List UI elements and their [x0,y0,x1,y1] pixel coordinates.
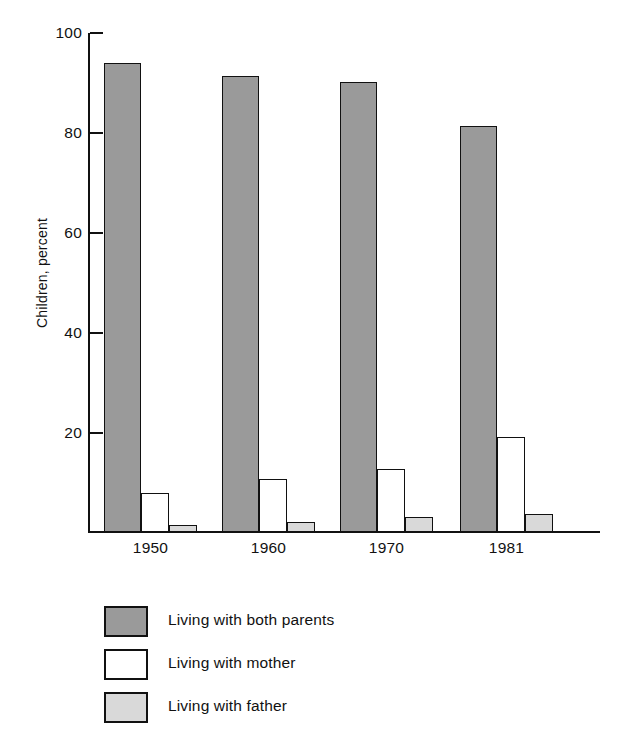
y-axis-tick-40 [90,332,103,334]
legend-swatch-father [104,692,148,723]
bar-1981-mother [497,437,525,534]
legend-item-both: Living with both parents [104,604,484,647]
y-axis-tick-label: 100 [56,25,82,41]
x-axis-label-1950: 1950 [91,539,211,557]
y-axis-tick-label-wrap: 40 [22,325,82,341]
legend-label-mother: Living with mother [168,653,296,673]
y-axis-tick-20 [90,432,103,434]
y-axis-tick-60 [90,232,103,234]
legend-item-mother: Living with mother [104,647,484,690]
legend-label-father: Living with father [168,696,287,716]
y-axis-tick-label: 40 [64,325,82,341]
chart-legend: Living with both parentsLiving with moth… [104,604,484,733]
y-axis-tick-label-wrap: 60 [22,225,82,241]
y-axis-tick-label: 20 [64,425,82,441]
x-axis-label-1981: 1981 [447,539,567,557]
y-axis-line [88,33,90,533]
legend-swatch-mother [104,649,148,680]
y-axis-tick-label: 80 [64,125,82,141]
y-axis-tick-label-wrap: 80 [22,125,82,141]
bar-1981-both [460,126,497,533]
bar-1960-mother [259,479,287,533]
legend-swatch-both [104,606,148,637]
x-axis-line [88,531,600,533]
y-axis-tick-100 [90,32,103,34]
bar-1970-both [340,82,377,534]
y-axis-tick-label: 60 [64,225,82,241]
bar-chart: Children, percent 10080604020 1950196019… [0,0,631,741]
legend-item-father: Living with father [104,690,484,733]
x-axis-label-1970: 1970 [327,539,447,557]
y-axis-tick-label-wrap: 20 [22,425,82,441]
y-axis-tick-label-wrap: 100 [22,25,82,41]
legend-label-both: Living with both parents [168,610,334,630]
bar-1970-mother [377,469,405,534]
y-axis-tick-80 [90,132,103,134]
bar-1950-both [104,63,141,533]
x-axis-label-1960: 1960 [209,539,329,557]
bar-1950-mother [141,493,169,534]
bar-1960-both [222,76,259,534]
